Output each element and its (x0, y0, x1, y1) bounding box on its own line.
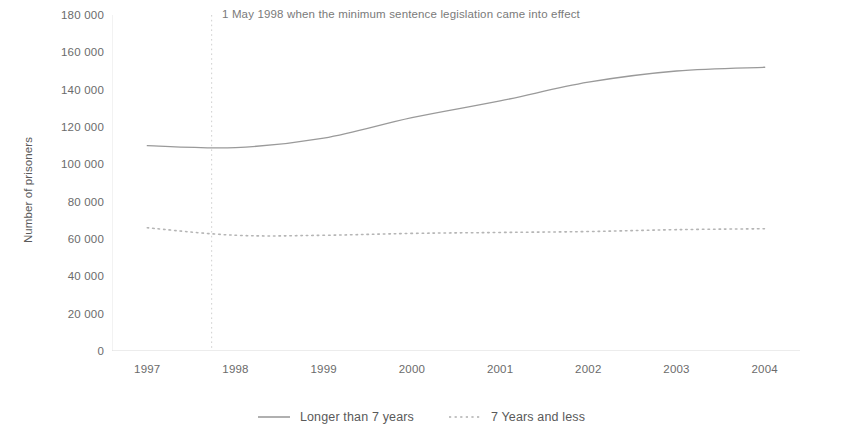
chart-legend: Longer than 7 years 7 Years and less (0, 410, 842, 424)
solid-line-swatch (257, 412, 291, 422)
y-axis-tick-label: 120 000 (22, 121, 104, 133)
y-axis-tick-label: 160 000 (22, 46, 104, 58)
y-axis-tick-label: 180 000 (22, 9, 104, 21)
legend-entry-7-years-and-less[interactable]: 7 Years and less (448, 410, 585, 424)
series-line-1 (147, 67, 764, 148)
x-axis-tick-label: 2001 (465, 363, 535, 375)
x-axis-tick-label: 1998 (200, 363, 270, 375)
x-axis-tick-label: 1997 (112, 363, 182, 375)
series-line-2 (147, 228, 764, 236)
legend-entry-longer-than-7-years[interactable]: Longer than 7 years (257, 410, 414, 424)
dotted-line-swatch (448, 412, 482, 422)
y-axis-tick-label: 140 000 (22, 84, 104, 96)
x-axis-tick-labels: 19971998199920002001200220032004 (112, 363, 800, 383)
y-axis-tick-label: 80 000 (22, 196, 104, 208)
data-series-group (147, 67, 764, 236)
y-axis-tick-label: 0 (22, 345, 104, 357)
y-axis-tick-label: 100 000 (22, 158, 104, 170)
x-axis-tick-label: 1999 (289, 363, 359, 375)
plot-area (112, 15, 800, 351)
prisoners-line-chart: Number of prisoners 020 00040 00060 0008… (0, 0, 842, 433)
y-axis-title: Number of prisoners (22, 90, 34, 290)
x-axis-tick-label: 2000 (377, 363, 447, 375)
y-axis-tick-label: 20 000 (22, 308, 104, 320)
x-axis-tick-label: 2002 (553, 363, 623, 375)
x-axis-tick-label: 2003 (642, 363, 712, 375)
legend-label: Longer than 7 years (300, 410, 414, 424)
y-axis-tick-label: 60 000 (22, 233, 104, 245)
y-axis-tick-label: 40 000 (22, 270, 104, 282)
x-axis-tick-label: 2004 (730, 363, 800, 375)
legend-label: 7 Years and less (491, 410, 585, 424)
